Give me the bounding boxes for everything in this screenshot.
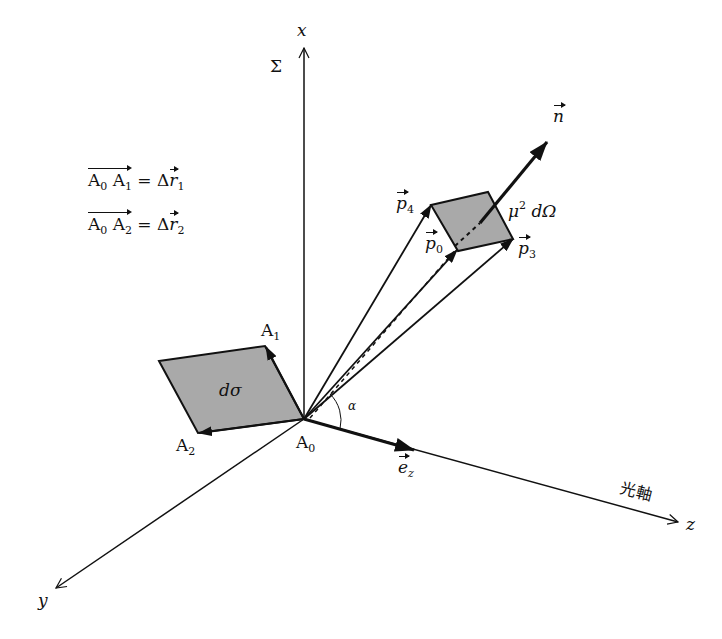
vector-p3 — [304, 239, 513, 419]
vector-p4 — [304, 205, 431, 419]
mu-letter: μ — [508, 201, 519, 221]
eq1-a1-sub: 1 — [125, 180, 132, 193]
a2-sub: 2 — [188, 445, 195, 458]
eq1-a0-sub: 0 — [100, 180, 107, 193]
equation-r2: A0 A2 = Δr2 — [88, 216, 184, 236]
normal-vector-label: n — [553, 108, 564, 125]
solid-angle-patch — [431, 192, 513, 251]
p0-sub: 0 — [436, 243, 443, 256]
unit-vector-ez — [304, 419, 414, 450]
p0-letter: p — [425, 235, 436, 252]
eq2-a0: A — [88, 214, 100, 234]
ez-sub: z — [408, 467, 414, 480]
n-letter: n — [553, 108, 564, 125]
momentum-p4-label: p4 — [396, 195, 414, 215]
momentum-p0-label: p0 — [425, 235, 443, 255]
p4-sub: 4 — [407, 203, 414, 216]
a2-letter: A — [176, 435, 188, 455]
vector-p0 — [304, 250, 457, 419]
eq1-a0: A — [88, 170, 100, 190]
eq2-r: r — [169, 216, 177, 233]
surface-element-label: dσ — [219, 382, 242, 399]
a0-sub: 0 — [308, 442, 315, 455]
z-axis-label: z — [686, 516, 695, 533]
y-axis-label: y — [38, 592, 48, 609]
eq2-a2-sub: 2 — [125, 224, 132, 237]
a1-sub: 1 — [273, 330, 280, 343]
eq1-a1: A — [113, 170, 125, 190]
x-axis-label: x — [297, 22, 307, 39]
eq1-equals: = Δ — [132, 170, 169, 190]
eq1-r: r — [169, 172, 177, 189]
equation-r1: A0 A1 = Δr1 — [88, 172, 184, 192]
a1-letter: A — [261, 320, 273, 340]
ez-letter: e — [398, 459, 408, 476]
vector-p0-dashed — [310, 233, 470, 418]
eq1-r-sub: 1 — [177, 180, 184, 193]
eq2-a2: A — [113, 214, 125, 234]
p4-letter: p — [396, 195, 407, 212]
eq2-a0-sub: 0 — [100, 224, 107, 237]
diagram-canvas: x Σ y z 光軸 A0 A1 = Δr1 A0 A2 = Δr2 A1 A2… — [0, 0, 722, 639]
angle-alpha-label: α — [348, 400, 356, 412]
p3-letter: p — [518, 240, 529, 257]
origin-a0-label: A0 — [296, 434, 315, 454]
p3-sub: 3 — [529, 248, 536, 261]
a0-letter: A — [296, 432, 308, 452]
diagram-graphics — [0, 0, 722, 639]
angle-alpha-arc — [330, 394, 341, 429]
plane-sigma-label: Σ — [270, 58, 282, 75]
solid-angle-label: μ2 dΩ — [508, 200, 556, 220]
eq2-r-sub: 2 — [177, 224, 184, 237]
unit-vector-ez-label: ez — [398, 459, 414, 479]
eq2-equals: = Δ — [132, 214, 169, 234]
mu-exp: 2 — [519, 199, 526, 212]
point-a1-label: A1 — [261, 322, 280, 342]
momentum-p3-label: p3 — [518, 240, 536, 260]
point-a2-label: A2 — [176, 437, 195, 457]
d-omega: dΩ — [531, 201, 556, 221]
